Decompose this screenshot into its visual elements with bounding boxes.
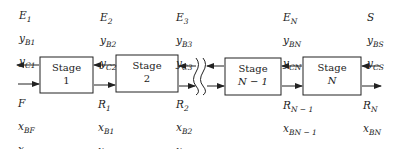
break-symbol [194, 58, 206, 95]
stage-n-line2: N [303, 74, 361, 87]
stage-1-label: Stage 1 [40, 61, 93, 87]
bottom-label-rn: RN xBN xCN [363, 99, 381, 149]
stream-label: R1 [98, 98, 114, 115]
yb-label: yB3 [176, 34, 192, 51]
stream-label: RN [363, 99, 381, 116]
stage-n-1-line1: Stage [225, 62, 281, 75]
stream-label: S [367, 11, 384, 28]
stream-label: R2 [176, 98, 192, 115]
stream-label: EN [283, 11, 301, 28]
stage-n-line1: Stage [303, 61, 361, 74]
xb-label: xB1 [98, 121, 114, 138]
stream-label: F [18, 97, 35, 114]
yc-label: yC1 [19, 55, 35, 72]
stream-label: E2 [100, 11, 116, 28]
yc-label: yC2 [100, 57, 116, 74]
xb-label: xB2 [176, 121, 192, 138]
top-label-s: S yBS yCS [367, 11, 384, 74]
top-label-e2: E2 yB2 yC2 [100, 11, 116, 74]
yc-label: yCS [367, 57, 384, 74]
xc-label: xCN [363, 145, 381, 149]
xb-label: xBN [363, 122, 381, 139]
yb-label: yBS [367, 34, 384, 51]
bottom-label-rn-1: RN − 1 xBN − 1 xCN − 1 [283, 99, 317, 149]
stage-1-line2: 1 [40, 74, 93, 87]
stage-n-label: Stage N [303, 61, 361, 87]
stage-n-1-line2: N − 1 [225, 75, 281, 88]
stage-2-line2: 2 [116, 72, 178, 85]
yc-label: yCN [283, 57, 301, 74]
top-label-e3: E3 yB3 yC3 [176, 11, 192, 74]
stage-n-1-label: Stage N − 1 [225, 62, 281, 88]
yb-label: yB1 [19, 32, 35, 49]
xc-label: xC2 [176, 144, 192, 149]
top-label-e1: E1 yB1 yC1 [19, 9, 35, 72]
stage-2-line1: Stage [116, 59, 178, 72]
xc-label: xCN − 1 [283, 145, 317, 149]
xb-label: xBN − 1 [283, 122, 317, 139]
top-label-en: EN yBN yCN [283, 11, 301, 74]
xb-label: xBF [18, 120, 35, 137]
stage-2-label: Stage 2 [116, 59, 178, 85]
stream-label: RN − 1 [283, 99, 317, 116]
yb-label: yBN [283, 34, 301, 51]
bottom-label-r1: R1 xB1 xC1 [98, 98, 114, 149]
yb-label: yB2 [100, 34, 116, 51]
yc-label: yC3 [176, 57, 192, 74]
bottom-label-r2: R2 xB2 xC2 [176, 98, 192, 149]
stream-label: E3 [176, 11, 192, 28]
bottom-label-f: F xBF xCF [18, 97, 35, 149]
stream-label: E1 [19, 9, 35, 26]
stage-1-line1: Stage [40, 61, 93, 74]
xc-label: xC1 [98, 144, 114, 149]
xc-label: xCF [18, 143, 35, 149]
